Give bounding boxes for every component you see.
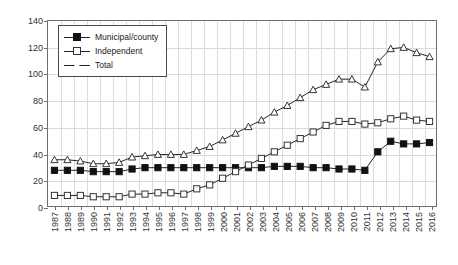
legend-marker-glyph bbox=[73, 33, 81, 41]
x-axis-tick-label-text: 2015 bbox=[414, 212, 423, 232]
data-point bbox=[323, 165, 329, 171]
x-axis-tick-label: 1999 bbox=[206, 212, 215, 232]
x-axis-tick-mark bbox=[328, 206, 329, 210]
data-point bbox=[207, 182, 213, 188]
x-axis-tick-label-text: 1989 bbox=[76, 212, 85, 232]
data-point bbox=[116, 159, 123, 165]
x-axis-tick-label: 1994 bbox=[141, 212, 150, 232]
x-axis-tick-label: 1997 bbox=[180, 212, 189, 232]
x-axis-tick-label: 2007 bbox=[310, 212, 319, 232]
data-point bbox=[155, 190, 161, 196]
data-point bbox=[168, 190, 174, 196]
data-point bbox=[194, 165, 200, 171]
x-axis-tick-mark bbox=[211, 206, 212, 210]
x-axis-tick-label: 1989 bbox=[76, 212, 85, 232]
x-axis-tick-mark bbox=[432, 206, 433, 210]
legend-marker-glyph bbox=[73, 47, 81, 55]
data-point bbox=[116, 194, 122, 200]
x-axis-tick-label: 1993 bbox=[128, 212, 137, 232]
legend-item-label: Independent bbox=[95, 47, 142, 56]
y-axis-tick-label: 120 bbox=[28, 43, 43, 52]
y-axis-tick-label: 60 bbox=[33, 123, 43, 132]
x-axis-tick-label-text: 2002 bbox=[245, 212, 254, 232]
x-axis-tick-label: 2012 bbox=[375, 212, 384, 232]
data-point bbox=[426, 118, 432, 124]
data-point bbox=[181, 191, 187, 197]
data-point bbox=[284, 163, 290, 169]
data-point bbox=[220, 165, 226, 171]
data-point bbox=[349, 118, 355, 124]
x-axis-tick-label-text: 1992 bbox=[115, 212, 124, 232]
x-axis-tick-label-text: 2009 bbox=[336, 212, 345, 232]
x-axis-tick-label-text: 1998 bbox=[193, 212, 202, 232]
legend-item: Independent bbox=[64, 44, 158, 58]
x-axis-tick-label: 2013 bbox=[388, 212, 397, 232]
x-axis-tick-label-text: 1997 bbox=[180, 212, 189, 232]
data-point bbox=[103, 169, 109, 175]
x-axis-tick-label-text: 2011 bbox=[362, 212, 371, 231]
data-point bbox=[336, 118, 342, 124]
x-axis-tick-label: 2014 bbox=[401, 212, 410, 232]
x-axis-tick-mark bbox=[250, 206, 251, 210]
data-point bbox=[401, 141, 407, 147]
data-point bbox=[413, 49, 420, 55]
x-axis-tick-label: 2008 bbox=[323, 212, 332, 232]
data-point bbox=[232, 130, 239, 136]
data-point bbox=[258, 155, 264, 161]
x-axis-tick-mark bbox=[367, 206, 368, 210]
y-axis-tick-label: 20 bbox=[33, 177, 43, 186]
data-point bbox=[245, 123, 252, 129]
x-axis-tick-mark bbox=[419, 206, 420, 210]
x-axis-tick-label-text: 2016 bbox=[427, 212, 436, 232]
x-axis-tick-mark bbox=[81, 206, 82, 210]
x-axis-tick-mark bbox=[107, 206, 108, 210]
data-point bbox=[388, 138, 394, 144]
x-axis-tick-label: 2009 bbox=[336, 212, 345, 232]
y-axis-tick-label: 80 bbox=[33, 97, 43, 106]
x-axis-tick-label-text: 2012 bbox=[375, 212, 384, 232]
data-point bbox=[361, 84, 368, 90]
x-axis-tick-label-text: 2000 bbox=[219, 212, 228, 232]
x-axis-tick-label-text: 1996 bbox=[167, 212, 176, 232]
x-axis-tick-label: 1990 bbox=[89, 212, 98, 232]
data-point bbox=[388, 116, 394, 122]
x-axis-tick-mark bbox=[276, 206, 277, 210]
x-axis-tick-label: 2015 bbox=[414, 212, 423, 232]
series-municipal-county bbox=[51, 138, 432, 175]
y-axis-tick-label: 40 bbox=[33, 150, 43, 159]
data-point bbox=[207, 165, 213, 171]
data-point bbox=[103, 194, 109, 200]
x-axis-tick-label: 2006 bbox=[297, 212, 306, 232]
x-axis-tick-label-text: 1994 bbox=[141, 212, 150, 232]
data-point bbox=[271, 163, 277, 169]
x-axis-tick-mark bbox=[120, 206, 121, 210]
x-axis-tick-label-text: 2013 bbox=[388, 212, 397, 232]
data-point bbox=[194, 186, 200, 192]
legend-marker-open-square-icon bbox=[64, 45, 90, 57]
x-axis-tick-mark bbox=[380, 206, 381, 210]
data-point bbox=[297, 94, 304, 100]
x-axis-tick-label-text: 2007 bbox=[310, 212, 319, 232]
x-axis-tick-label-text: 2008 bbox=[323, 212, 332, 232]
data-point bbox=[258, 117, 265, 123]
data-point bbox=[64, 192, 70, 198]
y-axis-tick-label: 0 bbox=[38, 204, 43, 213]
data-point bbox=[51, 192, 57, 198]
x-axis-tick-label-text: 1987 bbox=[50, 212, 59, 232]
data-point bbox=[129, 191, 135, 197]
data-point bbox=[271, 109, 278, 115]
x-axis-tick-label: 1996 bbox=[167, 212, 176, 232]
data-point bbox=[181, 165, 187, 171]
x-axis-tick-mark bbox=[406, 206, 407, 210]
x-axis-tick-mark bbox=[94, 206, 95, 210]
y-axis-tick-label: 100 bbox=[28, 70, 43, 79]
data-point bbox=[375, 120, 381, 126]
x-axis-tick-mark bbox=[237, 206, 238, 210]
x-axis-tick-label-text: 2003 bbox=[258, 212, 267, 232]
data-point bbox=[426, 140, 432, 146]
data-point bbox=[51, 167, 57, 173]
x-axis-tick-mark bbox=[68, 206, 69, 210]
series-independent bbox=[51, 113, 432, 200]
series-line bbox=[54, 141, 429, 171]
x-axis-tick-mark bbox=[198, 206, 199, 210]
